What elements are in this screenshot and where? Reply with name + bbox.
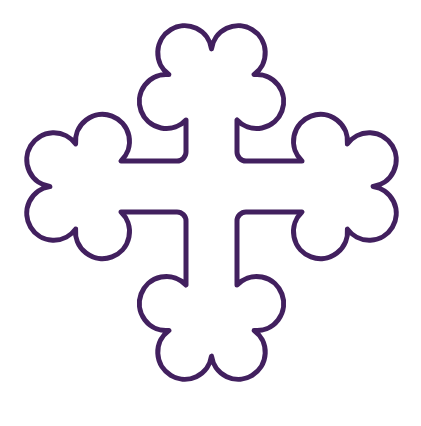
- cross-botonee-illustration: Purple outline drawing of a Greek cross …: [0, 0, 421, 426]
- cross-outline-path: [27, 26, 396, 379]
- figure-canvas: Purple outline drawing of a Greek cross …: [0, 0, 421, 426]
